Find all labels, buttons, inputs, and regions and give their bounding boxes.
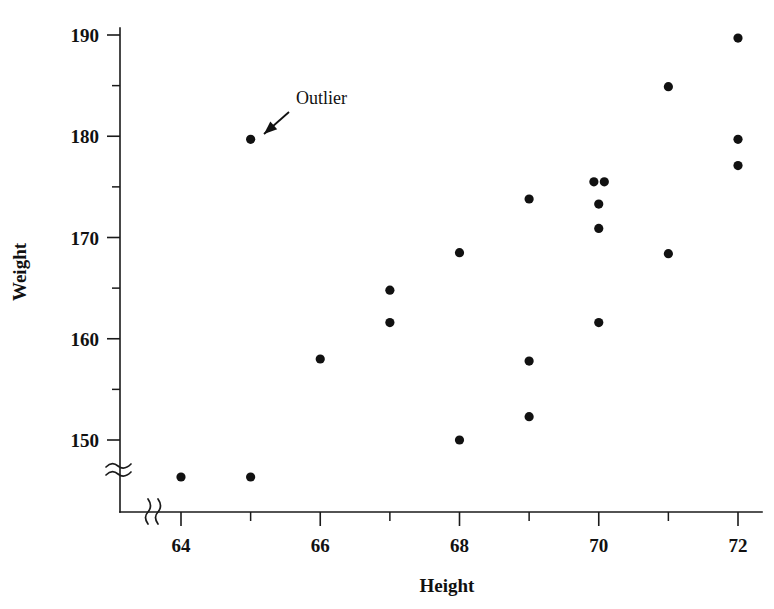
y-tick-label-180: 180 <box>71 126 100 147</box>
ticks-group <box>107 35 738 526</box>
data-point <box>246 135 255 144</box>
data-point <box>385 286 394 295</box>
y-tick-label-190: 190 <box>71 25 100 46</box>
axes-group <box>120 28 762 512</box>
data-point <box>664 249 673 258</box>
data-point <box>316 354 325 363</box>
data-point <box>664 82 673 91</box>
data-point <box>733 161 742 170</box>
data-point <box>525 194 534 203</box>
data-point <box>594 318 603 327</box>
axis-break-marks <box>106 464 161 524</box>
y-axis-break-lower <box>106 472 131 476</box>
scatter-plot-figure: 1501601701801906466687072 Outlier Height… <box>0 0 774 609</box>
data-point <box>525 356 534 365</box>
data-point <box>594 224 603 233</box>
x-axis-title: Height <box>420 575 476 596</box>
data-point <box>246 472 255 481</box>
data-point <box>733 135 742 144</box>
data-point <box>385 318 394 327</box>
data-point <box>594 199 603 208</box>
x-tick-label-72: 72 <box>729 535 748 556</box>
y-tick-label-160: 160 <box>71 329 100 350</box>
y-axis-break-upper <box>106 464 131 468</box>
data-point <box>455 435 464 444</box>
data-point <box>589 177 598 186</box>
annotation-label-outlier: Outlier <box>296 88 347 108</box>
data-point <box>600 177 609 186</box>
x-tick-label-68: 68 <box>450 535 469 556</box>
tick-labels-group: 1501601701801906466687072 <box>71 25 748 556</box>
y-axis-title: Weight <box>9 242 30 301</box>
annotations-group: Outlier <box>264 88 347 134</box>
data-point <box>455 248 464 257</box>
x-tick-label-64: 64 <box>172 535 192 556</box>
data-point <box>525 412 534 421</box>
x-tick-label-66: 66 <box>311 535 330 556</box>
data-points-group <box>176 33 742 481</box>
data-point <box>733 33 742 42</box>
data-point <box>176 472 185 481</box>
y-tick-label-170: 170 <box>71 228 100 249</box>
plot-canvas: 1501601701801906466687072 Outlier Height… <box>0 0 774 609</box>
x-tick-label-70: 70 <box>589 535 608 556</box>
y-tick-label-150: 150 <box>71 430 100 451</box>
